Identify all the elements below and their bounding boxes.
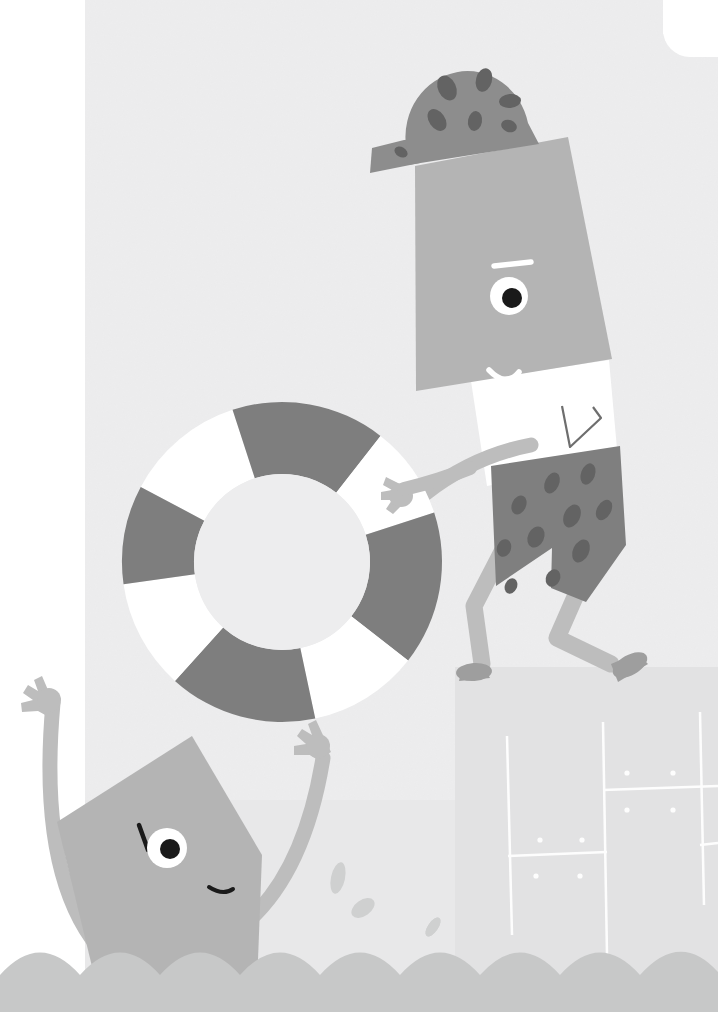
top-right-white-block (663, 0, 718, 34)
ring-hole (194, 474, 370, 650)
swimmer-pupil (160, 839, 180, 859)
life-ring (122, 402, 442, 722)
diver-pupil (502, 288, 522, 308)
pool-deck (455, 667, 718, 975)
illustration-canvas (0, 0, 718, 1012)
wave-band (0, 952, 718, 1012)
illustration-svg (0, 0, 718, 1012)
